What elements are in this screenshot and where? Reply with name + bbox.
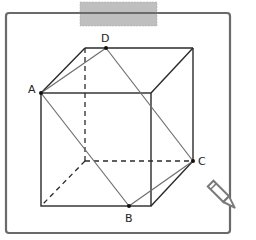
tape-icon xyxy=(80,2,157,26)
diagram-frame xyxy=(6,13,230,233)
cube-diagram: A D C B xyxy=(0,0,256,240)
label-d: D xyxy=(101,32,109,45)
label-c: C xyxy=(198,155,206,168)
label-b: B xyxy=(125,212,133,225)
label-a: A xyxy=(28,83,36,96)
